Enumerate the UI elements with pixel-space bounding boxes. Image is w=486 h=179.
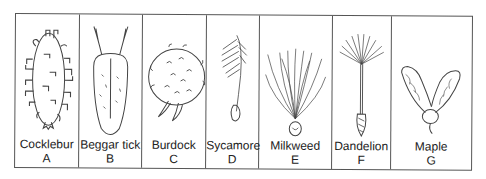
milkweed-illustration — [259, 15, 333, 140]
maple-illustration — [391, 16, 472, 141]
panel-dandelion: Dandelion F — [332, 16, 392, 169]
seed-diagram-frame: Cocklebur A Beggar tick B Bu — [14, 13, 473, 171]
seed-letter: G — [391, 153, 471, 167]
caption-dandelion: Dandelion F — [332, 139, 390, 167]
panel-burdock: Burdock C — [142, 15, 207, 168]
seed-letter: E — [259, 152, 331, 166]
caption-beggar-tick: Beggar tick B — [79, 137, 141, 165]
panel-sycamore: Sycamore D — [206, 15, 260, 168]
seed-name: Milkweed — [259, 138, 331, 152]
seed-name: Maple — [391, 139, 471, 153]
sycamore-illustration — [206, 15, 260, 140]
beggar-tick-illustration — [79, 14, 143, 139]
caption-burdock: Burdock C — [142, 138, 205, 166]
seed-letter: F — [332, 153, 390, 167]
panel-beggar-tick: Beggar tick B — [79, 14, 143, 167]
seed-letter: C — [142, 152, 205, 166]
seed-name: Sycamore — [206, 138, 258, 152]
cocklebur-illustration — [15, 14, 80, 139]
seed-name: Cocklebur — [15, 137, 78, 151]
seed-letter: B — [79, 151, 141, 165]
caption-maple: Maple G — [391, 139, 471, 167]
panel-cocklebur: Cocklebur A — [15, 14, 80, 167]
caption-sycamore: Sycamore D — [206, 138, 258, 166]
caption-milkweed: Milkweed E — [259, 138, 331, 166]
caption-cocklebur: Cocklebur A — [15, 137, 78, 165]
seed-letter: D — [206, 152, 258, 166]
seed-name: Dandelion — [332, 139, 390, 153]
panel-milkweed: Milkweed E — [259, 15, 333, 168]
seed-letter: A — [15, 151, 78, 165]
dandelion-illustration — [332, 16, 392, 141]
seed-name: Burdock — [142, 138, 205, 152]
burdock-illustration — [142, 15, 207, 140]
seed-name: Beggar tick — [79, 137, 141, 151]
panel-maple: Maple G — [391, 16, 472, 169]
